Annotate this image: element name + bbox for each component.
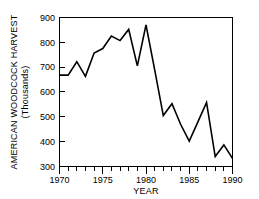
y-tick-label-400: 400	[40, 137, 55, 147]
chart-figure: 300 400 500 600 700 800 900 1970 1975 19…	[0, 0, 259, 199]
y-tick-label-500: 500	[40, 112, 55, 122]
y-tick-label-900: 900	[40, 13, 55, 23]
y-tick-label-800: 800	[40, 38, 55, 48]
woodcock-harvest-line-chart: 300 400 500 600 700 800 900 1970 1975 19…	[0, 0, 259, 199]
y-axis-title: AMERICAN WOODCOCK HARVEST	[9, 14, 19, 169]
y-tick-label-300: 300	[40, 162, 55, 172]
x-tick-label-1985: 1985	[179, 175, 199, 185]
x-tick-label-1975: 1975	[93, 175, 113, 185]
y-axis-subtitle: (Thousands)	[20, 66, 30, 119]
y-tick-label-700: 700	[40, 62, 55, 72]
y-tick-label-600: 600	[40, 87, 55, 97]
x-axis-title: YEAR	[133, 186, 159, 196]
x-tick-label-1970: 1970	[49, 175, 69, 185]
x-tick-label-1980: 1980	[136, 175, 156, 185]
x-tick-label-1990: 1990	[222, 175, 242, 185]
